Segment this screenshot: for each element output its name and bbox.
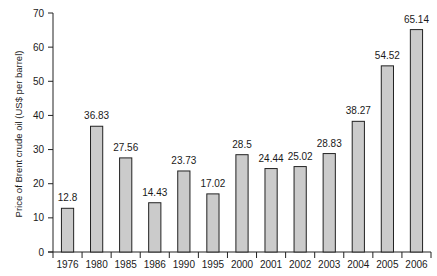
x-tick-label: 2003 [318, 259, 341, 270]
x-tick-label: 2006 [405, 259, 428, 270]
x-tick-label: 2005 [376, 259, 399, 270]
bar-2005 [381, 66, 393, 252]
y-tick-label: 60 [33, 42, 45, 53]
data-label-1995: 17.02 [200, 178, 225, 189]
bar-2006 [410, 30, 422, 252]
bar-2004 [352, 121, 364, 252]
data-label-1980: 36.83 [84, 110, 109, 121]
data-label-2000: 28.5 [232, 139, 252, 150]
x-tick-label: 1986 [144, 259, 167, 270]
y-tick-label: 50 [33, 76, 45, 87]
y-tick-label: 40 [33, 110, 45, 121]
data-label-2001: 24.44 [259, 153, 284, 164]
bar-1986 [149, 203, 161, 252]
y-tick-label: 0 [38, 247, 44, 258]
x-tick-label: 2004 [347, 259, 370, 270]
x-tick-label: 1990 [173, 259, 196, 270]
data-label-1990: 23.73 [171, 155, 196, 166]
data-label-2002: 25.02 [288, 151, 313, 162]
data-label-1985: 27.56 [113, 142, 138, 153]
x-tick-label: 1976 [56, 259, 79, 270]
bar-chart: 010203040506070 197619801985198619901995… [0, 0, 437, 276]
y-tick-label: 10 [33, 212, 45, 223]
x-tick-label: 1995 [202, 259, 225, 270]
bar-1976 [61, 208, 73, 252]
data-label-2004: 38.27 [346, 105, 371, 116]
data-label-1976: 12.8 [58, 192, 78, 203]
x-axis: 1976198019851986199019952000200120022003… [48, 252, 431, 270]
bar-1985 [120, 158, 132, 252]
y-axis-title: Price of Brent crude oil (US$ per barrel… [13, 51, 24, 218]
y-tick-label: 30 [33, 144, 45, 155]
y-tick-label: 20 [33, 178, 45, 189]
bar-1995 [207, 194, 219, 252]
x-tick-label: 2001 [260, 259, 283, 270]
x-tick-label: 2000 [231, 259, 254, 270]
data-label-1986: 14.43 [142, 187, 167, 198]
x-tick-label: 1980 [85, 259, 108, 270]
data-label-2006: 65.14 [404, 14, 429, 25]
bar-2000 [236, 155, 248, 252]
data-label-2005: 54.52 [375, 50, 400, 61]
bar-2003 [323, 154, 335, 252]
data-label-2003: 28.83 [317, 138, 342, 149]
bar-1990 [178, 171, 190, 252]
x-tick-label: 1985 [115, 259, 138, 270]
x-tick-label: 2002 [289, 259, 312, 270]
y-tick-label: 70 [33, 8, 45, 19]
y-axis: 010203040506070 [33, 8, 53, 258]
bar-2002 [294, 167, 306, 252]
bar-1980 [91, 126, 103, 252]
bar-2001 [265, 169, 277, 252]
